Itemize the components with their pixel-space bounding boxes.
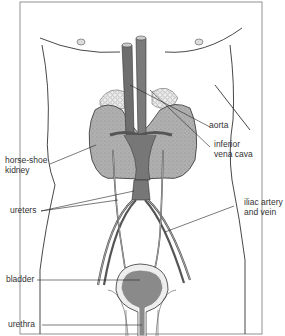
label-horse-shoe-kidney: horse-shoe kidney <box>5 156 48 175</box>
nipple-left <box>77 39 85 45</box>
nipple-right <box>195 39 203 45</box>
aorta <box>136 38 146 135</box>
label-ureters: ureters <box>10 206 36 216</box>
label-bladder: bladder <box>6 275 34 285</box>
label-aorta: aorta <box>209 121 228 131</box>
anatomy-diagram: aorta inferior vena cava horse-shoe kidn… <box>0 0 285 336</box>
label-inferior-vena-cava: inferior vena cava <box>214 140 253 159</box>
label-urethra: urethra <box>8 320 35 330</box>
label-iliac-artery-and-vein: iliac artery and vein <box>244 198 283 217</box>
